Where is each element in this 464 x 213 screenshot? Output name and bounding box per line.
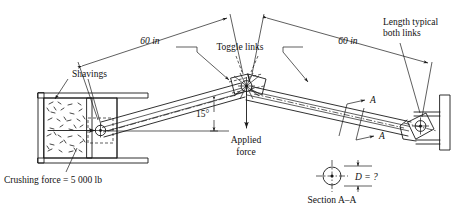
section-arrow-label-top: A xyxy=(369,95,376,105)
length-typical-label-line2: both links xyxy=(383,28,421,38)
dimension-label-right: 60 in xyxy=(338,36,358,46)
shavings-label: Shavings xyxy=(72,69,107,79)
toggle-links-label: Toggle links xyxy=(216,42,263,52)
crushing-force-label: Crushing force = 5 000 lb xyxy=(4,175,102,185)
applied-force-label-line1: Applied xyxy=(231,135,262,145)
right-anchor-bracket xyxy=(400,95,450,150)
left-link xyxy=(101,83,245,137)
shavings-fill xyxy=(47,102,85,152)
right-link xyxy=(246,86,411,136)
figure-root: 60 in 60 in Toggle links Length typical … xyxy=(0,0,464,213)
diameter-label: D = ? xyxy=(354,172,378,182)
applied-force-label-line2: force xyxy=(236,147,256,157)
section-arrow-label-bottom: A xyxy=(378,131,385,141)
dimension-left xyxy=(78,14,243,120)
length-typical-label-line1: Length typical xyxy=(383,17,438,27)
press-hopper xyxy=(38,93,148,163)
toggle-link-diagram: 60 in 60 in Toggle links Length typical … xyxy=(0,0,464,213)
section-caption: Section A–A xyxy=(308,195,357,205)
angle-label: 15° xyxy=(196,109,210,119)
dimension-label-left: 60 in xyxy=(140,36,160,46)
